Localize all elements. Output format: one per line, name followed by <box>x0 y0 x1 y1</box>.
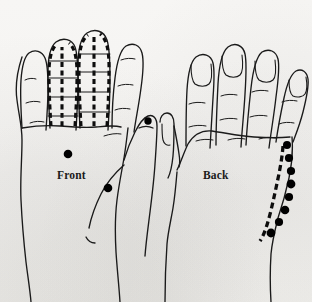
thumb-nail-back <box>162 124 170 145</box>
dorsum-radial-edge <box>165 172 177 302</box>
back-finger-middle-nail <box>222 55 243 77</box>
finger-little-outline <box>21 51 48 130</box>
finger-ring-outline <box>112 44 143 132</box>
acupressure-points <box>64 117 296 237</box>
palm-knuckle-line <box>22 126 121 128</box>
point-front-thenar <box>104 184 113 193</box>
back-finger-index-nail <box>191 64 212 86</box>
thenar-crease-lower <box>86 237 95 243</box>
hands-diagram <box>0 0 312 302</box>
thumb-nail-crease <box>139 127 153 129</box>
point-back-ulnar-4 <box>287 180 296 189</box>
point-back-ulnar-6 <box>281 206 290 215</box>
point-front-thumb-tip <box>144 117 151 124</box>
point-back-ulnar-7 <box>275 218 283 226</box>
right-hand-dorsal-view <box>160 45 308 302</box>
back-finger-ring-nail <box>255 60 276 82</box>
dorsum-knuckle-line <box>177 131 290 170</box>
hand-acupressure-figure: Front Back <box>0 0 312 302</box>
back-finger-little-outline <box>276 70 308 142</box>
view-label-back: Back <box>203 169 229 181</box>
point-back-ulnar-2 <box>285 154 293 162</box>
point-back-ulnar-8 <box>267 229 276 238</box>
point-back-ulnar-1 <box>283 141 291 149</box>
palm-crease-upper <box>104 134 121 136</box>
finger-little-creases <box>25 78 44 123</box>
back-finger-index-outline <box>186 55 214 148</box>
point-front-palm-center <box>64 150 73 159</box>
view-label-front: Front <box>57 169 86 181</box>
meridian-index-right <box>69 43 77 126</box>
thumb-outline <box>124 115 157 256</box>
point-back-ulnar-5 <box>285 193 293 201</box>
back-finger-ring-outline <box>246 50 279 148</box>
back-finger-little-nail <box>289 77 307 97</box>
thenar-crease <box>89 165 124 228</box>
meridian-index-left <box>49 44 57 126</box>
meridian-back-ulnar <box>260 146 283 241</box>
left-hand-palmar-view <box>16 31 157 302</box>
thumb-outline-back-inner <box>174 126 180 167</box>
palm-outline <box>16 57 31 302</box>
finger-ring-creases <box>115 58 135 110</box>
point-back-ulnar-3 <box>287 167 295 175</box>
